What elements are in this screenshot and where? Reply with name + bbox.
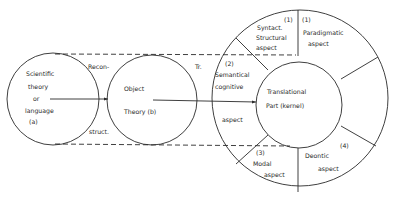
aspect-syntactic-line-2: Structural [256, 34, 287, 41]
divider-upper-right [341, 57, 378, 79]
circle-object-theory [107, 55, 197, 145]
circle-a-line-1: Scientific [26, 70, 55, 77]
aspect-deontic-number: (4) [340, 142, 349, 149]
divider-upper-left [236, 38, 268, 70]
circle-a-line-2: theory [28, 83, 48, 91]
arrow-translation [153, 100, 256, 102]
circle-b-line-2: Theory (b) [123, 108, 156, 116]
aspect-semantical-line-3: aspect [222, 116, 243, 124]
circle-outer-aspects [212, 10, 388, 186]
dashed-envelope-top [55, 54, 296, 55]
aspect-modal-line-2: aspect [264, 171, 285, 179]
circle-a-line-4: language [25, 107, 54, 115]
label-recon: Recon- [88, 63, 109, 70]
aspect-modal-number: (3) [256, 149, 265, 156]
aspect-paradigmatic-line-2: aspect [308, 40, 329, 48]
label-tr: Tr. [194, 63, 202, 70]
aspect-semantical-line-2: cognitive [215, 83, 244, 91]
diagram-canvas: Scientific theory or language (a) Recon-… [0, 0, 394, 199]
aspect-deontic-line-1: Deontic [305, 152, 329, 159]
aspect-syntactic-number: (1) [284, 16, 293, 23]
dashed-envelope-bottom [55, 144, 290, 146]
aspect-deontic-line-2: aspect [318, 165, 339, 173]
aspect-modal-line-1: Modal [253, 160, 272, 167]
circle-a-line-5: (a) [29, 118, 38, 125]
label-struct: struct. [89, 128, 109, 135]
aspect-syntactic-line-3: aspect [256, 44, 277, 52]
aspect-semantical-line-1: Semantical [215, 71, 250, 78]
kernel-line-1: Translational [266, 88, 307, 95]
circle-a-line-3: or [33, 95, 40, 102]
circle-b-line-1: Object [124, 85, 145, 93]
aspect-semantical-number: (2) [225, 60, 234, 67]
aspect-paradigmatic-number: (1) [302, 16, 311, 23]
aspect-paradigmatic-line-1: Paradigmatic [303, 29, 344, 37]
aspect-syntactic-line-1: Syntact. [257, 24, 283, 32]
kernel-line-2: Part (kernel) [266, 102, 304, 109]
